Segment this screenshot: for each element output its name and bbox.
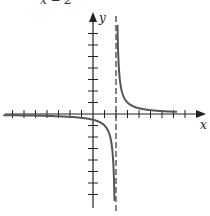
x-axis-arrow-icon xyxy=(196,110,206,118)
y-axis-arrow-icon xyxy=(89,12,97,22)
curve-left-branch xyxy=(3,115,114,201)
x-axis-label: x xyxy=(200,118,207,132)
y-axis xyxy=(88,12,98,208)
equation-fragment: x − 2 xyxy=(40,0,72,7)
graph-canvas: x − 2 x y xyxy=(0,0,210,216)
curve-right-branch xyxy=(117,25,176,112)
y-axis-label: y xyxy=(98,11,106,25)
